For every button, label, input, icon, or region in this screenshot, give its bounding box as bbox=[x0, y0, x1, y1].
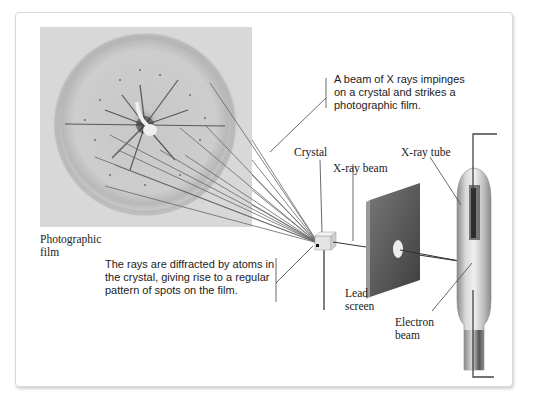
label-crystal: Crystal bbox=[294, 146, 327, 159]
label-lead-screen: Lead screen bbox=[345, 287, 374, 313]
label-lead-screen-line-2: screen bbox=[345, 300, 374, 313]
callout-diffraction-line-3: pattern of spots on the film. bbox=[105, 284, 274, 297]
label-photographic-film: Photographic film bbox=[40, 233, 101, 259]
label-electron-beam-line-1: Electron bbox=[395, 316, 434, 329]
callout-beam-line-3: photographic film. bbox=[334, 99, 465, 112]
crystal bbox=[315, 232, 336, 250]
xray-tube bbox=[456, 134, 497, 377]
label-photographic-film-line-2: film bbox=[40, 246, 101, 259]
callout-diffraction-line-2: the crystal, giving rise to a regular bbox=[105, 271, 274, 284]
label-photographic-film-line-1: Photographic bbox=[40, 233, 101, 246]
callout-beam-line-1: A beam of X rays impinges bbox=[334, 73, 465, 86]
label-xray-beam: X-ray beam bbox=[333, 162, 388, 175]
callout-diffraction: The rays are diffracted by atoms in the … bbox=[105, 258, 274, 297]
label-lead-screen-line-1: Lead bbox=[345, 287, 374, 300]
label-electron-beam: Electron beam bbox=[395, 316, 434, 342]
label-xray-beam-text: X-ray beam bbox=[333, 162, 388, 175]
label-xray-tube-text: X-ray tube bbox=[401, 146, 451, 159]
callout-beam: A beam of X rays impinges on a crystal a… bbox=[334, 73, 465, 112]
label-xray-tube: X-ray tube bbox=[401, 146, 451, 159]
callout-beam-line-2: on a crystal and strikes a bbox=[334, 86, 465, 99]
callout-diffraction-line-1: The rays are diffracted by atoms in bbox=[105, 258, 274, 271]
diffraction-diagram bbox=[0, 0, 534, 401]
label-crystal-text: Crystal bbox=[294, 146, 327, 159]
lead-screen bbox=[366, 183, 420, 299]
label-electron-beam-line-2: beam bbox=[395, 329, 434, 342]
